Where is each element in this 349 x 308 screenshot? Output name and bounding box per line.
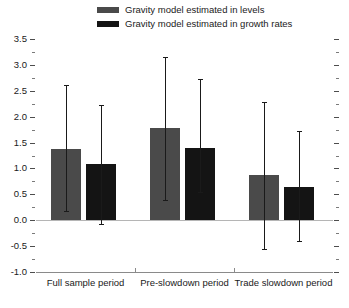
error-bar-cap-upper: [297, 131, 302, 132]
y-axis-tick-minor-right: [336, 207, 339, 208]
y-axis-tick-minor: [32, 181, 35, 182]
legend-swatch-growth-rates: [97, 21, 119, 27]
legend-label-levels: Gravity model estimated in levels: [125, 4, 264, 15]
legend-item-growth-rates: Gravity model estimated in growth rates: [97, 17, 337, 30]
y-axis-tick-major-right: [334, 220, 339, 221]
zero-reference-line: [36, 220, 333, 221]
y-axis-tick-major-right: [334, 143, 339, 144]
error-bar-line: [165, 57, 166, 200]
y-axis-tick-minor: [32, 156, 35, 157]
y-axis-tick-major: [30, 272, 35, 273]
y-axis-tick-minor: [32, 130, 35, 131]
y-axis-tick-major-right: [334, 117, 339, 118]
y-axis-tick-minor: [32, 104, 35, 105]
error-bar-line: [264, 102, 265, 249]
x-axis-group-separator-tick: [234, 268, 235, 273]
error-bar-cap-lower: [297, 241, 302, 242]
error-bar-line: [200, 79, 201, 192]
y-axis-tick-major: [30, 194, 35, 195]
y-axis-tick-minor-right: [336, 78, 339, 79]
y-axis-label: 2.5: [14, 86, 27, 96]
error-bar-line: [299, 131, 300, 241]
y-axis-tick-major-right: [334, 168, 339, 169]
y-axis-tick-minor: [32, 207, 35, 208]
legend-label-growth-rates: Gravity model estimated in growth rates: [125, 18, 292, 29]
y-axis-tick-major: [30, 65, 35, 66]
y-axis-tick-major-right: [334, 272, 339, 273]
y-axis-tick-minor-right: [336, 233, 339, 234]
error-bar-cap-lower: [198, 192, 203, 193]
y-axis-tick-major: [30, 117, 35, 118]
y-axis-tick-major: [30, 168, 35, 169]
y-axis-tick-major: [30, 143, 35, 144]
error-bar-line: [66, 85, 67, 211]
error-bar-cap-upper: [64, 85, 69, 86]
y-axis-tick-minor-right: [336, 181, 339, 182]
y-axis-tick-major-right: [334, 39, 339, 40]
y-axis-tick-major-right: [334, 65, 339, 66]
y-axis-label: 1.0: [14, 163, 27, 173]
y-axis-tick-major: [30, 220, 35, 221]
y-axis-label: 1.5: [14, 138, 27, 148]
y-axis-label: -0.5: [11, 241, 27, 251]
y-axis-label: 3.5: [14, 34, 27, 44]
error-bar-cap-upper: [198, 79, 203, 80]
x-axis-category-label: Trade slowdown period: [234, 277, 333, 289]
error-bar-cap-lower: [163, 200, 168, 201]
y-axis-tick-major-right: [334, 194, 339, 195]
y-axis-label: 2.0: [14, 112, 27, 122]
chart-container: Gravity model estimated in levels Gravit…: [0, 0, 349, 308]
error-bar-cap-lower: [262, 249, 267, 250]
x-axis-group-separator-tick: [135, 268, 136, 273]
x-axis-category-label: Full sample period: [36, 277, 135, 289]
legend-swatch-levels: [97, 7, 119, 13]
chart-legend: Gravity model estimated in levels Gravit…: [97, 3, 337, 31]
y-axis-tick-minor-right: [336, 156, 339, 157]
error-bar-cap-upper: [262, 102, 267, 103]
y-axis-tick-minor-right: [336, 130, 339, 131]
y-axis-label: 3.0: [14, 60, 27, 70]
y-axis-tick-major: [30, 39, 35, 40]
y-axis-tick-major: [30, 91, 35, 92]
y-axis-tick-minor: [32, 233, 35, 234]
y-axis-label: -1.0: [11, 267, 27, 277]
y-axis-tick-minor-right: [336, 52, 339, 53]
error-bar-cap-lower: [64, 211, 69, 212]
y-axis-tick-minor: [32, 259, 35, 260]
error-bar-line: [101, 105, 102, 224]
error-bar-cap-upper: [163, 57, 168, 58]
legend-item-levels: Gravity model estimated in levels: [97, 3, 337, 16]
y-axis-tick-minor: [32, 78, 35, 79]
x-axis-line: [36, 272, 333, 273]
y-axis-tick-major-right: [334, 91, 339, 92]
error-bar-cap-lower: [99, 224, 104, 225]
y-axis-tick-minor: [32, 52, 35, 53]
y-axis-label: 0.0: [14, 215, 27, 225]
y-axis-tick-major-right: [334, 246, 339, 247]
y-axis-label: 0.5: [14, 189, 27, 199]
y-axis-tick-major: [30, 246, 35, 247]
x-axis-category-label: Pre-slowdown period: [135, 277, 234, 289]
y-axis-tick-minor-right: [336, 259, 339, 260]
error-bar-cap-upper: [99, 105, 104, 106]
y-axis-tick-minor-right: [336, 104, 339, 105]
